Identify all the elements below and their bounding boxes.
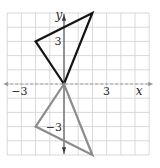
x-tick-label: 3 [103,85,110,98]
y-tick-label: 3 [55,35,62,48]
y-tick-label: −3 [46,121,62,134]
x-axis-left-arrow-icon [3,82,8,86]
y-axis-down-arrow-icon [62,147,66,153]
x-axis-label: x [136,84,143,98]
y-axis-label: y [55,8,63,22]
y-axis-up-arrow-icon [62,15,66,21]
x-tick-label: −3 [11,85,27,98]
coordinate-plane: yx−333−3 [0,0,160,168]
x-axis-right-arrow-icon [148,82,153,86]
